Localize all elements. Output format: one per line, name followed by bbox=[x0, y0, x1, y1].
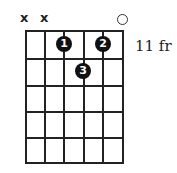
muted-string-marker-2: x bbox=[40, 11, 48, 24]
fret-line bbox=[25, 137, 124, 139]
finger-dot-2: 2 bbox=[95, 36, 111, 52]
open-string-marker-6 bbox=[117, 14, 128, 25]
string-line bbox=[122, 30, 124, 163]
string-line bbox=[83, 30, 85, 163]
string-line bbox=[44, 30, 46, 163]
fret-line bbox=[25, 58, 124, 60]
fret-line bbox=[25, 111, 124, 113]
string-line bbox=[25, 30, 27, 163]
start-fret-label: 11 fr bbox=[135, 37, 172, 55]
fret-line bbox=[25, 30, 124, 32]
fret-line bbox=[25, 162, 124, 164]
finger-dot-1: 1 bbox=[56, 36, 72, 52]
muted-string-marker-1: x bbox=[20, 11, 28, 24]
fret-line bbox=[25, 85, 124, 87]
finger-dot-3: 3 bbox=[75, 63, 91, 79]
